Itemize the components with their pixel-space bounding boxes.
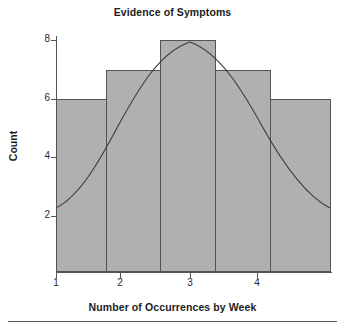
bar-2 (107, 71, 161, 272)
bar-4 (216, 71, 271, 272)
bar-3 (161, 41, 216, 272)
histogram-bars (57, 41, 331, 272)
chart-figure: Evidence of Symptoms Count 8 6 4 2 1 2 3… (0, 0, 345, 330)
x-axis-label: Number of Occurrences by Week (0, 301, 345, 313)
bar-5 (271, 100, 331, 272)
plot-area (0, 0, 345, 330)
footer-divider (8, 321, 337, 322)
